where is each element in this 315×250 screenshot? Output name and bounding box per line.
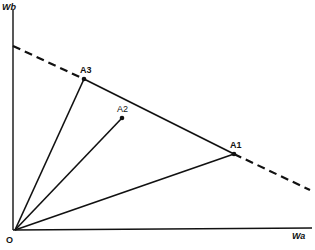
- origin-label: O: [6, 235, 13, 245]
- ray-o-a3: [15, 79, 84, 230]
- diagram: [0, 0, 315, 250]
- point-a1: [232, 152, 237, 157]
- label-a3: A3: [80, 65, 92, 75]
- x-axis-label: Wa: [292, 231, 305, 241]
- label-a2: A2: [117, 104, 128, 114]
- ray-o-a2: [15, 118, 122, 230]
- label-a1: A1: [230, 140, 242, 150]
- point-a3: [82, 77, 87, 82]
- dashed-line-left: [13, 46, 84, 79]
- point-a2: [120, 116, 125, 121]
- ray-o-a1: [15, 154, 234, 230]
- dashed-line-right: [234, 154, 310, 190]
- x-axis: [13, 228, 312, 230]
- y-axis-label: Wb: [2, 2, 16, 12]
- solid-line-a3-a1: [84, 79, 234, 154]
